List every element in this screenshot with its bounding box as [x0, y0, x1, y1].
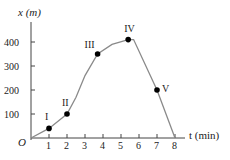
position-time-chart: 12345678100200300400 IIIIIIIVV x (m) t (…: [0, 0, 230, 160]
data-point: [154, 87, 160, 93]
x-tick-label: 7: [154, 140, 159, 151]
data-point: [95, 51, 101, 57]
point-label: V: [162, 83, 170, 94]
x-tick-label: 6: [136, 140, 141, 151]
data-point: [46, 126, 52, 132]
point-label: IV: [124, 23, 135, 34]
data-point: [64, 111, 70, 117]
x-tick-label: 1: [46, 140, 51, 151]
y-tick-label: 200: [4, 85, 19, 96]
y-axis-label: x (m): [17, 6, 41, 19]
x-tick-label: 3: [82, 140, 87, 151]
y-tick-label: 300: [4, 61, 19, 72]
point-label: I: [45, 111, 48, 122]
y-tick-label: 100: [4, 109, 19, 120]
data-point: [125, 37, 131, 43]
x-tick-label: 2: [64, 140, 69, 151]
point-label: III: [85, 39, 95, 50]
origin-label: O: [18, 136, 26, 148]
x-axis-label: t (min): [189, 129, 220, 142]
x-tick-label: 4: [100, 140, 105, 151]
y-tick-label: 400: [4, 37, 19, 48]
point-label: II: [62, 97, 69, 108]
x-tick-label: 8: [172, 140, 177, 151]
x-tick-label: 5: [118, 140, 123, 151]
position-curve: [31, 40, 175, 138]
